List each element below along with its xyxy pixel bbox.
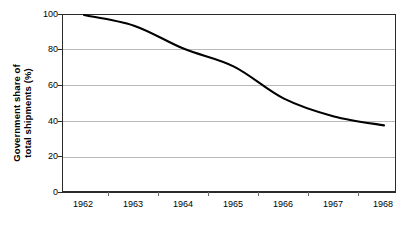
x-tick-mark <box>158 192 159 196</box>
y-tick-label: 0 <box>32 188 58 197</box>
x-tick-mark <box>208 192 209 196</box>
y-tick-label: 60 <box>32 81 58 90</box>
x-tick-mark <box>258 192 259 196</box>
y-tick-label: 100 <box>32 10 58 19</box>
y-tick-label: 40 <box>32 117 58 126</box>
x-tick-label: 1963 <box>113 199 153 209</box>
x-tick-label: 1967 <box>313 199 353 209</box>
y-axis-title-line-1: Government share of <box>11 64 23 161</box>
plot-area <box>62 14 396 192</box>
x-tick-mark <box>308 192 309 196</box>
data-series-line <box>63 15 397 193</box>
chart-figure: Government share of total shipments (%) … <box>0 0 414 226</box>
x-tick-mark <box>108 192 109 196</box>
y-tick-label: 20 <box>32 152 58 161</box>
x-tick-label: 1964 <box>163 199 203 209</box>
x-tick-mark <box>358 192 359 196</box>
x-tick-label: 1968 <box>363 199 403 209</box>
y-tick-label: 80 <box>32 45 58 54</box>
x-tick-label: 1965 <box>213 199 253 209</box>
x-tick-label: 1966 <box>263 199 303 209</box>
x-tick-label: 1962 <box>63 199 103 209</box>
y-axis-tick-labels: 100 80 60 40 20 0 <box>30 0 58 226</box>
